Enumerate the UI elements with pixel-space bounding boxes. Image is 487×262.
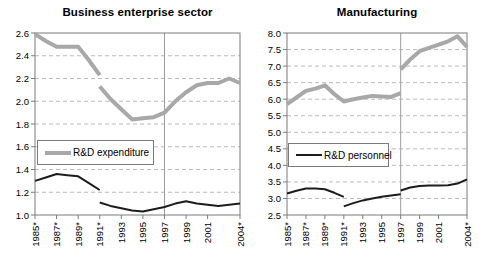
svg-text:4.5: 4.5 bbox=[268, 143, 281, 154]
svg-text:2.4: 2.4 bbox=[16, 50, 29, 61]
svg-text:6.5: 6.5 bbox=[268, 77, 281, 88]
svg-text:2001: 2001 bbox=[433, 222, 444, 243]
svg-text:1989*: 1989* bbox=[319, 222, 330, 247]
svg-text:1.8: 1.8 bbox=[16, 119, 29, 130]
svg-text:7.5: 7.5 bbox=[268, 44, 281, 55]
svg-text:1999: 1999 bbox=[181, 222, 192, 243]
svg-text:1987*: 1987* bbox=[300, 222, 311, 247]
rd-expenditure-line-sample-icon bbox=[45, 151, 71, 155]
svg-text:1.4: 1.4 bbox=[16, 164, 29, 175]
chart-title-manufacturing: Manufacturing bbox=[287, 6, 467, 18]
svg-text:1999: 1999 bbox=[414, 222, 425, 243]
svg-text:1991*: 1991* bbox=[338, 222, 349, 247]
svg-text:3.5: 3.5 bbox=[268, 176, 281, 187]
svg-text:2001: 2001 bbox=[202, 222, 213, 243]
svg-text:2004*: 2004* bbox=[462, 222, 473, 247]
svg-text:1991*: 1991* bbox=[94, 222, 105, 247]
charts-canvas: 1.01.21.41.61.82.02.22.42.61985*1987*198… bbox=[0, 0, 487, 262]
svg-text:5.5: 5.5 bbox=[268, 110, 281, 121]
legend-label-rd-expenditure: R&D expenditure bbox=[73, 147, 149, 158]
svg-text:2.6: 2.6 bbox=[16, 28, 29, 39]
svg-text:2004*: 2004* bbox=[235, 222, 246, 247]
svg-text:6.0: 6.0 bbox=[268, 94, 281, 105]
svg-text:5.0: 5.0 bbox=[268, 127, 281, 138]
svg-text:1995: 1995 bbox=[376, 222, 387, 243]
svg-text:8.0: 8.0 bbox=[268, 28, 281, 39]
svg-text:1987*: 1987* bbox=[51, 222, 62, 247]
legend-rd-personnel: R&D personnel bbox=[288, 143, 389, 167]
svg-text:1993: 1993 bbox=[116, 222, 127, 243]
legend-label-rd-personnel: R&D personnel bbox=[324, 150, 392, 161]
svg-text:2.2: 2.2 bbox=[16, 73, 29, 84]
svg-text:2.0: 2.0 bbox=[16, 96, 29, 107]
rd-personnel-line-sample-icon bbox=[296, 154, 322, 156]
svg-text:1.2: 1.2 bbox=[16, 187, 29, 198]
svg-text:1995: 1995 bbox=[137, 222, 148, 243]
svg-text:1.6: 1.6 bbox=[16, 141, 29, 152]
svg-text:1989*: 1989* bbox=[73, 222, 84, 247]
svg-text:3.0: 3.0 bbox=[268, 193, 281, 204]
chart-title-business-enterprise: Business enterprise sector bbox=[35, 6, 240, 18]
rd-indicators-figure: 1.01.21.41.61.82.02.22.42.61985*1987*198… bbox=[0, 0, 487, 262]
legend-rd-expenditure: R&D expenditure bbox=[37, 140, 154, 165]
svg-text:1.0: 1.0 bbox=[16, 210, 29, 221]
svg-text:2.5: 2.5 bbox=[268, 210, 281, 221]
svg-text:1997: 1997 bbox=[159, 222, 170, 243]
svg-text:1985*: 1985* bbox=[282, 222, 293, 247]
svg-text:1985*: 1985* bbox=[30, 222, 41, 247]
svg-text:1993: 1993 bbox=[357, 222, 368, 243]
svg-text:4.0: 4.0 bbox=[268, 160, 281, 171]
svg-text:7.0: 7.0 bbox=[268, 61, 281, 72]
svg-text:1997: 1997 bbox=[395, 222, 406, 243]
